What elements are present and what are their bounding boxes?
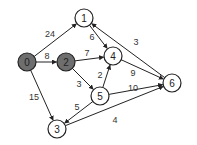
graph-diagram: 248157363291054 0123456 <box>0 0 197 145</box>
edge-0-1 <box>34 24 76 57</box>
node-label: 6 <box>169 78 175 89</box>
edge-6-1 <box>92 24 165 78</box>
node-label: 3 <box>54 124 60 135</box>
edge-4-6 <box>121 60 163 79</box>
edge-weight-label: 5 <box>74 102 79 112</box>
node-label: 0 <box>24 57 30 68</box>
edge-5-4 <box>103 65 110 87</box>
node-label: 1 <box>81 13 87 24</box>
edge-weight-label: 2 <box>97 70 102 80</box>
node-1: 1 <box>75 9 93 27</box>
node-5: 5 <box>91 87 109 105</box>
node-label: 5 <box>97 91 103 102</box>
edge-labels-layer: 248157363291054 <box>29 29 139 125</box>
edge-weight-label: 3 <box>76 79 81 89</box>
node-3: 3 <box>48 120 66 138</box>
node-4: 4 <box>104 47 122 65</box>
node-2: 2 <box>57 53 75 71</box>
edge-weight-label: 4 <box>112 115 117 125</box>
node-label: 2 <box>63 57 69 68</box>
edge-weight-label: 6 <box>89 32 94 42</box>
edge-weight-label: 8 <box>44 51 49 61</box>
edge-weight-label: 24 <box>45 29 55 39</box>
node-0: 0 <box>18 53 36 71</box>
edge-weight-label: 9 <box>130 68 135 78</box>
node-label: 4 <box>110 51 116 62</box>
edge-weight-label: 3 <box>133 37 138 47</box>
edge-weight-label: 7 <box>84 48 89 58</box>
edge-weight-label: 15 <box>29 92 39 102</box>
edge-weight-label: 10 <box>128 83 138 93</box>
node-6: 6 <box>163 74 181 92</box>
